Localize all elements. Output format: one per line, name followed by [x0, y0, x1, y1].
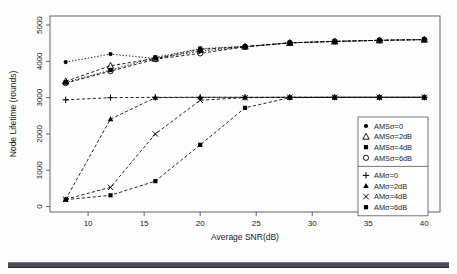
marker-filled-circle: [108, 52, 112, 56]
marker-plus: [107, 94, 113, 100]
legend: AMSσ=0AMSσ=2dBAMSσ=4dBAMSσ=6dBAMσ=0AMσ=2…: [358, 117, 428, 216]
series-0: [64, 37, 427, 64]
y-tick-label: 4000: [35, 52, 44, 70]
marker-plus: [62, 97, 68, 103]
legend-ams-label: AMSσ=6dB: [374, 154, 412, 163]
marker-filled-square: [364, 145, 368, 149]
marker-filled-square: [364, 205, 368, 209]
y-tick-label: 5000: [35, 16, 44, 34]
y-tick-label: 3000: [35, 88, 44, 106]
series-3: [63, 37, 427, 86]
x-tick-label: 15: [140, 219, 149, 228]
marker-filled-square: [108, 193, 112, 197]
x-tick-label: 10: [84, 219, 93, 228]
x-axis-label: Average SNR(dB): [211, 232, 279, 242]
y-tick-label: 0: [35, 204, 44, 209]
legend-am-label: AMσ=6dB: [374, 203, 407, 212]
legend-ams-label: AMSσ=0: [374, 122, 403, 131]
marker-filled-square: [198, 143, 202, 147]
legend-am-label: AMσ=2dB: [374, 182, 407, 191]
marker-filled-square: [198, 47, 202, 51]
marker-cross: [108, 185, 113, 190]
marker-filled-square: [333, 95, 337, 99]
marker-filled-circle: [364, 124, 368, 128]
legend-am-label: AMσ=4dB: [374, 192, 407, 201]
marker-filled-square: [243, 106, 247, 110]
marker-filled-square: [64, 198, 68, 202]
x-tick-label: 35: [364, 219, 373, 228]
figure-container: 10152025303540010002000300040005000Avera…: [0, 0, 457, 274]
marker-cross: [153, 131, 158, 136]
y-tick-label: 1000: [35, 161, 44, 179]
y-axis-label: Node Lifetime (rounds): [8, 71, 18, 158]
marker-filled-square: [153, 179, 157, 183]
bottom-rule-divider: [8, 262, 449, 268]
legend-ams-label: AMSσ=4dB: [374, 143, 412, 152]
x-tick-label: 30: [308, 219, 317, 228]
x-tick-label: 40: [420, 219, 429, 228]
marker-filled-triangle: [108, 116, 114, 121]
node-lifetime-vs-snr-chart: 10152025303540010002000300040005000Avera…: [0, 0, 457, 274]
y-tick-label: 2000: [35, 125, 44, 143]
marker-filled-square: [422, 37, 426, 41]
marker-filled-square: [288, 96, 292, 100]
x-tick-label: 20: [196, 219, 205, 228]
legend-ams-label: AMSσ=2dB: [374, 132, 412, 141]
series-1: [62, 36, 427, 84]
marker-filled-square: [422, 95, 426, 99]
x-tick-label: 25: [252, 219, 261, 228]
legend-am-label: AMσ=0: [374, 171, 398, 180]
marker-filled-square: [377, 95, 381, 99]
marker-filled-circle: [64, 60, 68, 64]
